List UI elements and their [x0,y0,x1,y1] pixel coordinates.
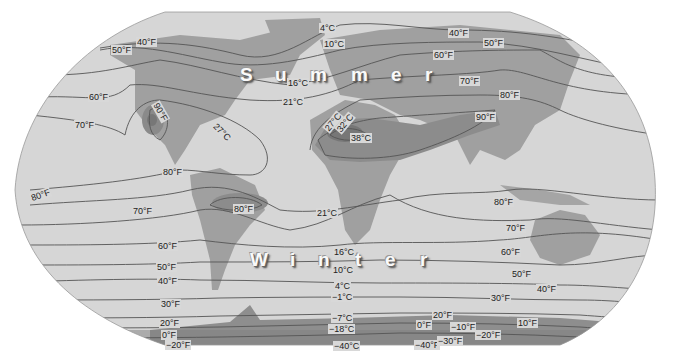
isotherm-label: 38°C [350,133,372,143]
isotherm-label: 21°C [282,97,304,107]
isotherm-label: 0°F [416,320,432,330]
isotherm-map: S u m m e r W i n t e r 40°F 50°F 4°C 10… [0,0,675,363]
winter-letter: i [290,249,295,271]
isotherm-label: 20°F [159,318,180,328]
isotherm-label: 60°F [157,241,178,251]
isotherm-label: 40°F [136,37,157,47]
isotherm-label: 80°F [162,167,183,177]
winter-letter: t [355,249,361,271]
isotherm-label: −7°C [331,313,353,323]
isotherm-label: 4°C [319,23,336,33]
isotherm-label: 20°F [432,310,453,320]
winter-letter: n [318,249,330,271]
isotherm-label: 16°C [287,78,309,88]
isotherm-label: 10°C [332,265,354,275]
isotherm-label: −10°F [450,322,476,332]
isotherm-label: 60°F [500,247,521,257]
isotherm-label: 4°C [334,281,351,291]
isotherm-label: 21°C [316,208,338,218]
isotherm-label: 70°F [459,76,480,86]
isotherm-label: 30°F [490,293,511,303]
isotherm-label: 40°F [536,284,557,294]
isotherm-label: 50°F [156,262,177,272]
isotherm-label: −20°F [165,340,191,350]
isotherm-label: 60°F [88,92,109,102]
summer-letter: e [391,64,402,86]
isotherm-label: 80°F [233,204,254,214]
summer-letter: m [310,64,327,86]
summer-letter: u [275,64,287,86]
isotherm-label: 90°F [475,112,496,122]
isotherm-label: 50°F [483,38,504,48]
summer-letter: S [240,64,253,86]
isotherm-label: 70°F [74,120,95,130]
map-graphic [0,0,675,363]
isotherm-label: −40°C [333,341,360,351]
isotherm-label: 10°C [323,39,345,49]
isotherm-label: 16°C [333,247,355,257]
isotherm-label: 40°F [448,28,469,38]
isotherm-label: 0°F [161,330,177,340]
isotherm-label: 70°F [505,223,526,233]
winter-letter: W [250,249,268,271]
summer-letter: m [351,64,368,86]
isotherm-label: 70°F [132,206,153,216]
isotherm-label: 40°F [157,276,178,286]
isotherm-label: −1°C [331,292,353,302]
isotherm-label: 80°F [499,90,520,100]
isotherm-label: 30°F [160,299,181,309]
isotherm-label: 50°F [111,45,132,55]
winter-letter: r [420,249,427,271]
isotherm-label: 60°F [433,50,454,60]
isotherm-label: 80°F [493,197,514,207]
isotherm-label: −20°F [475,330,501,340]
isotherm-label: −30°F [437,336,463,346]
isotherm-label: 50°F [511,269,532,279]
winter-letter: e [385,249,396,271]
summer-letter: r [425,64,432,86]
isotherm-label: −18°C [328,324,355,334]
isotherm-label: 10°F [517,318,538,328]
